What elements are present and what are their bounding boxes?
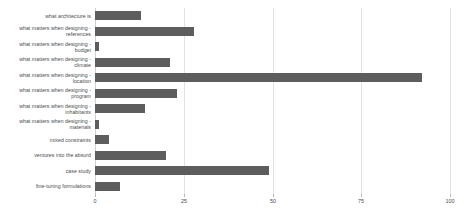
bar-row xyxy=(95,179,450,195)
bar-row xyxy=(95,39,450,55)
x-tick-label: 75 xyxy=(358,198,364,205)
bar-row xyxy=(95,132,450,148)
horizontal-bar-chart: what architecture iswhat matters when de… xyxy=(0,0,470,220)
category-label: what matters when designing - materials xyxy=(0,118,91,130)
bar xyxy=(95,120,99,129)
category-label: what matters when designing - budget xyxy=(0,41,91,53)
x-tick-mark xyxy=(95,194,96,197)
bar-row xyxy=(95,101,450,117)
bar-row xyxy=(95,8,450,24)
category-label: what matters when designing - references xyxy=(0,25,91,37)
category-label: mixed constraints xyxy=(0,137,91,143)
category-label: fine-tuning formulations xyxy=(0,183,91,189)
x-tick-label: 50 xyxy=(270,198,276,205)
x-tick-mark xyxy=(450,194,451,197)
category-label: what matters when designing - inhabitant… xyxy=(0,103,91,115)
x-tick-mark xyxy=(361,194,362,197)
category-label: what architecture is xyxy=(0,13,91,19)
x-tick-mark xyxy=(184,194,185,197)
x-axis: 0255075100 xyxy=(95,194,450,214)
bar-row xyxy=(95,148,450,164)
gridline-100 xyxy=(450,8,451,194)
bar-row xyxy=(95,86,450,102)
x-tick-label: 25 xyxy=(181,198,187,205)
category-label: what matters when designing - climate xyxy=(0,56,91,68)
x-tick-label: 0 xyxy=(94,198,97,205)
bar xyxy=(95,89,177,98)
category-label: what matters when designing - program xyxy=(0,87,91,99)
bar xyxy=(95,58,170,67)
x-tick-label: 100 xyxy=(446,198,455,205)
category-label: ventures into the absurd xyxy=(0,152,91,158)
category-label: case study xyxy=(0,168,91,174)
bar xyxy=(95,166,269,175)
bar xyxy=(95,151,166,160)
bar-row xyxy=(95,163,450,179)
bar xyxy=(95,104,145,113)
category-axis-labels: what architecture iswhat matters when de… xyxy=(0,8,91,194)
bar-row xyxy=(95,55,450,71)
bar xyxy=(95,42,99,51)
category-label: what matters when designing - location xyxy=(0,72,91,84)
bar xyxy=(95,11,141,20)
bars-layer xyxy=(95,8,450,194)
bar-row xyxy=(95,117,450,133)
bar-row xyxy=(95,70,450,86)
bar xyxy=(95,27,194,36)
bar-row xyxy=(95,24,450,40)
bar xyxy=(95,135,109,144)
bar xyxy=(95,73,422,82)
bar xyxy=(95,182,120,191)
plot-area xyxy=(95,8,450,194)
x-tick-mark xyxy=(273,194,274,197)
